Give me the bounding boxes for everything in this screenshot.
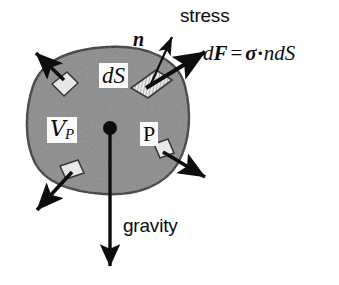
equation-dS: dS: [274, 41, 295, 65]
surface-element-label: dS: [99, 63, 128, 88]
equation-equals: =: [231, 41, 243, 65]
normal-vector-label: n: [133, 29, 144, 49]
volume-label: VP: [47, 117, 77, 143]
volume-subscript: P: [65, 126, 74, 142]
stress-gravity-diagram: stress gravity n dS VP P dF=σ·ndS: [0, 0, 339, 285]
equation-sigma: σ: [245, 41, 256, 65]
equation-n: n: [264, 41, 275, 65]
stress-label: stress: [180, 6, 229, 25]
point-label: P: [140, 122, 158, 146]
point-p-marker: [103, 121, 117, 135]
equation-force-symbol: F: [214, 41, 228, 65]
equation-d: d: [203, 41, 214, 65]
equation-dot: ·: [257, 41, 264, 65]
force-equation: dF=σ·ndS: [203, 43, 295, 64]
gravity-label: gravity: [123, 216, 178, 235]
volume-symbol: V: [50, 116, 66, 141]
